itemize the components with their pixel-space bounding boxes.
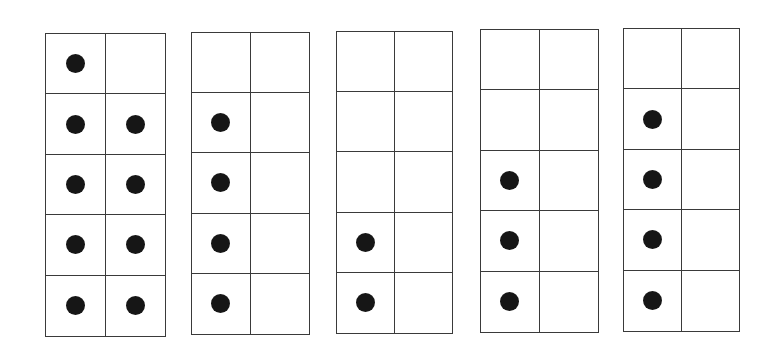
frame-cell: [540, 272, 599, 332]
frame-cell: [106, 155, 166, 215]
ten-frame: [480, 29, 599, 333]
frame-cell: [192, 93, 251, 153]
counter-dot-icon: [211, 234, 230, 253]
frame-cell: [106, 276, 166, 336]
frame-cell: [682, 89, 740, 149]
frame-cell: [192, 274, 251, 334]
frame-cell: [540, 30, 599, 90]
frame-cell: [251, 214, 310, 274]
frame-cell: [46, 94, 106, 154]
ten-frame: [45, 33, 166, 337]
frame-cell: [395, 92, 453, 152]
frame-cell: [540, 90, 599, 150]
frame-cell: [337, 92, 395, 152]
counter-dot-icon: [66, 54, 85, 73]
frame-cell: [192, 33, 251, 93]
counter-dot-icon: [500, 292, 519, 311]
frame-cell: [337, 213, 395, 273]
counter-dot-icon: [126, 235, 145, 254]
frame-cell: [46, 276, 106, 336]
counter-dot-icon: [211, 173, 230, 192]
frame-cell: [251, 274, 310, 334]
frame-cell: [192, 153, 251, 213]
frame-cell: [106, 215, 166, 275]
frame-cell: [337, 32, 395, 92]
frame-cell: [192, 214, 251, 274]
counter-dot-icon: [66, 115, 85, 134]
counter-dot-icon: [643, 230, 662, 249]
counter-dot-icon: [643, 110, 662, 129]
frame-cell: [481, 211, 540, 271]
frame-cell: [682, 150, 740, 210]
frame-cell: [46, 215, 106, 275]
frame-cell: [106, 94, 166, 154]
frame-cell: [481, 151, 540, 211]
frame-cell: [624, 271, 682, 331]
frame-cell: [624, 210, 682, 270]
counter-dot-icon: [66, 175, 85, 194]
counter-dot-icon: [500, 171, 519, 190]
counter-dot-icon: [211, 294, 230, 313]
counter-dot-icon: [356, 293, 375, 312]
frame-cell: [540, 211, 599, 271]
counter-dot-icon: [643, 170, 662, 189]
counter-dot-icon: [126, 296, 145, 315]
counter-dot-icon: [500, 231, 519, 250]
counter-dot-icon: [643, 291, 662, 310]
frame-cell: [682, 29, 740, 89]
frame-cell: [46, 34, 106, 94]
frame-cell: [624, 89, 682, 149]
counter-dot-icon: [211, 113, 230, 132]
frame-cell: [540, 151, 599, 211]
frame-cell: [395, 273, 453, 333]
frame-cell: [624, 150, 682, 210]
frame-cell: [251, 93, 310, 153]
counter-dot-icon: [66, 296, 85, 315]
frame-cell: [395, 213, 453, 273]
frame-cell: [682, 271, 740, 331]
frame-cell: [251, 153, 310, 213]
frame-cell: [251, 33, 310, 93]
frame-cell: [682, 210, 740, 270]
counter-dot-icon: [126, 175, 145, 194]
ten-frame: [191, 32, 310, 335]
counter-dot-icon: [356, 233, 375, 252]
frame-cell: [337, 152, 395, 212]
counter-dot-icon: [66, 235, 85, 254]
frame-cell: [481, 30, 540, 90]
frame-cell: [481, 272, 540, 332]
frame-cell: [481, 90, 540, 150]
frame-cell: [624, 29, 682, 89]
ten-frame: [336, 31, 453, 334]
frame-cell: [46, 155, 106, 215]
frame-cell: [106, 34, 166, 94]
frame-cell: [395, 152, 453, 212]
counter-dot-icon: [126, 115, 145, 134]
ten-frame: [623, 28, 740, 332]
frame-cell: [337, 273, 395, 333]
frame-cell: [395, 32, 453, 92]
